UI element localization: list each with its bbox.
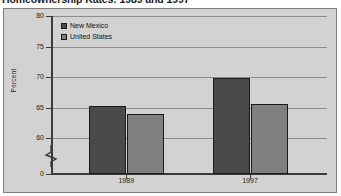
y-axis-tick bbox=[46, 77, 51, 78]
legend-swatch-icon bbox=[61, 23, 67, 29]
legend-swatch-icon bbox=[61, 34, 67, 40]
y-axis-tick-label: 0 bbox=[4, 170, 44, 177]
x-axis-tick-label: 1989 bbox=[106, 177, 146, 185]
y-axis-tick bbox=[46, 138, 51, 139]
legend: New MexicoUnited States bbox=[61, 21, 181, 43]
page-title: Homeownership Rates: 1989 and 1997 bbox=[2, 0, 339, 5]
y-axis-tick-label: 75 bbox=[4, 43, 44, 50]
bar bbox=[127, 114, 164, 174]
y-axis-tick bbox=[46, 174, 51, 175]
y-axis-tick-label: 80 bbox=[4, 12, 44, 19]
bar bbox=[89, 106, 126, 174]
legend-item-label: United States bbox=[70, 33, 112, 41]
bar bbox=[251, 104, 288, 174]
y-axis-tick bbox=[46, 16, 51, 17]
y-axis-tick-label: 65 bbox=[4, 104, 44, 111]
legend-item-label: New Mexico bbox=[70, 22, 108, 30]
chart-frame: 80757065600 Percent 19891997 New MexicoU… bbox=[3, 8, 337, 193]
legend-item: New Mexico bbox=[61, 21, 181, 30]
y-axis-tick-label: 60 bbox=[4, 134, 44, 141]
x-axis-tick-label: 1997 bbox=[230, 177, 270, 185]
y-axis-tick bbox=[46, 47, 51, 48]
legend-item: United States bbox=[61, 32, 181, 41]
bar bbox=[213, 78, 250, 174]
chart-screenshot: Homeownership Rates: 1989 and 1997 80757… bbox=[0, 0, 341, 196]
y-axis-title: Percent bbox=[10, 58, 17, 104]
y-axis-tick bbox=[46, 108, 51, 109]
